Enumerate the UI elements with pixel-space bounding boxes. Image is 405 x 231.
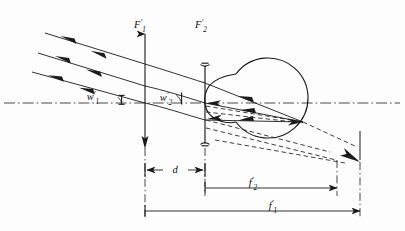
spectacle-lens-plane xyxy=(142,34,149,216)
label-f2-prime: f′2 xyxy=(249,176,258,192)
label-f1-prime: f′1 xyxy=(269,199,277,215)
image-point-arrow xyxy=(340,131,360,162)
eye-lens xyxy=(201,63,210,146)
incoming-ray-2 xyxy=(38,53,145,86)
intermediate-rays xyxy=(145,64,205,120)
eyeball xyxy=(205,58,308,138)
diagram-canvas: F′1 F′2 w′1 w′2 d f′2 f′1 xyxy=(0,0,405,231)
label-w2-prime: w′2 xyxy=(160,91,173,107)
virtual-ray-extensions xyxy=(206,106,357,163)
label-d: d xyxy=(172,164,178,175)
label-F1-prime: F′1 xyxy=(133,18,146,34)
label-F2-prime: F′2 xyxy=(194,18,207,34)
eye-lens-vertex-arrows xyxy=(207,100,223,120)
optical-diagram-figure: F′1 F′2 w′1 w′2 d f′2 f′1 xyxy=(0,0,405,231)
